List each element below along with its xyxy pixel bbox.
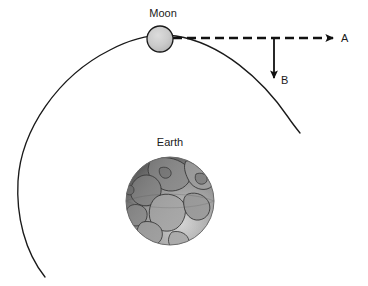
orbit-diagram: Moon Earth A B — [0, 0, 368, 286]
vector-b-label: B — [281, 75, 288, 86]
moon-body — [147, 26, 173, 52]
earth-globe — [124, 157, 215, 251]
vector-a-label: A — [341, 33, 348, 44]
moon-label: Moon — [141, 8, 185, 19]
earth-label: Earth — [148, 137, 192, 148]
